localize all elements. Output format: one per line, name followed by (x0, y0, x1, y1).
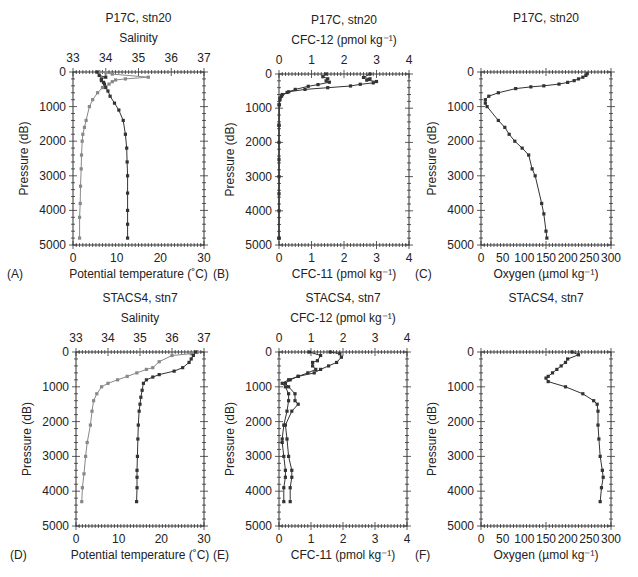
y-tick-label: 3000 (245, 449, 272, 463)
y-tick-label: 5000 (245, 238, 272, 252)
series-potential-temperature (135, 350, 197, 503)
x-tick-label: 0 (276, 251, 283, 265)
y-tick-label: 0 (265, 345, 272, 359)
profile-figure: 010002000300040005000Pressure (dB)010203… (0, 0, 638, 577)
x-tick-label: 150 (536, 532, 556, 546)
plot-frame (76, 352, 204, 526)
x-tick-label: 4 (404, 532, 411, 546)
series-oxygen (544, 350, 604, 503)
chart-title: P17C, stn20 (311, 13, 377, 27)
x-tick-label: 4 (406, 251, 413, 265)
series-oxygen (484, 72, 589, 240)
y-tick-label: 5000 (39, 238, 66, 252)
top-tick-label: 33 (66, 51, 80, 65)
x-tick-label: 2 (341, 251, 348, 265)
y-tick-label: 2000 (245, 415, 272, 429)
top-tick-label: 3 (372, 331, 379, 345)
x-tick-label: 10 (110, 251, 124, 265)
top-axis-label: CFC-12 (pmol kg⁻¹) (290, 311, 395, 325)
y-tick-label: 2000 (447, 134, 474, 148)
top-tick-label: 34 (99, 51, 113, 65)
y-tick-label: 3000 (42, 449, 69, 463)
x-tick-label: 30 (197, 532, 211, 546)
chart-panel-c: 010002000300040005000Pressure (dB)050100… (415, 11, 621, 281)
top-axis-label: Salinity (119, 31, 158, 45)
chart-title: P17C, stn20 (513, 11, 579, 25)
x-tick-label: 300 (601, 251, 621, 265)
y-tick-label: 3000 (245, 170, 272, 184)
chart-panel-a: 010002000300040005000Pressure (dB)010203… (7, 11, 211, 281)
y-tick-label: 2000 (39, 134, 66, 148)
panel-label: (D) (10, 548, 27, 562)
series-salinity (78, 70, 150, 239)
chart-panel-d: 010002000300040005000Pressure (dB)010203… (10, 291, 211, 562)
x-tick-label: 3 (372, 532, 379, 546)
chart-title: P17C, stn20 (105, 11, 171, 25)
series-potential-temperature (95, 70, 129, 239)
top-tick-label: 37 (197, 51, 211, 65)
top-tick-label: 0 (276, 53, 283, 67)
top-tick-label: 2 (340, 331, 347, 345)
y-tick-label: 1000 (447, 100, 474, 114)
y-tick-label: 4000 (42, 484, 69, 498)
y-tick-label: 3000 (447, 169, 474, 183)
plot-frame (279, 352, 407, 526)
y-axis-label: Pressure (dB) (20, 402, 34, 476)
y-tick-label: 3000 (39, 169, 66, 183)
top-tick-label: 4 (404, 331, 411, 345)
x-tick-label: 0 (276, 532, 283, 546)
chart-title: STACS4, stn7 (305, 291, 380, 305)
x-tick-label: 1 (308, 532, 315, 546)
top-tick-label: 1 (308, 53, 315, 67)
x-tick-label: 150 (536, 251, 556, 265)
y-tick-label: 1000 (39, 100, 66, 114)
y-tick-label: 5000 (42, 519, 69, 533)
x-tick-label: 10 (112, 532, 126, 546)
panel-label: (C) (415, 267, 432, 281)
x-tick-label: 100 (514, 251, 534, 265)
series-salinity (80, 350, 199, 503)
x-tick-label: 100 (514, 532, 534, 546)
y-tick-label: 4000 (245, 204, 272, 218)
panel-label: (E) (213, 548, 229, 562)
x-axis-label: Potential temperature (˚C) (69, 267, 208, 281)
y-tick-label: 0 (265, 67, 272, 81)
x-axis-label: Potential temperature (˚C) (71, 548, 210, 562)
x-tick-label: 300 (601, 532, 621, 546)
top-tick-label: 0 (276, 331, 283, 345)
series-cfc-12 (277, 72, 331, 239)
x-tick-label: 1 (308, 251, 315, 265)
x-tick-label: 3 (373, 251, 380, 265)
y-tick-label: 2000 (245, 135, 272, 149)
panel-label: (A) (7, 267, 23, 281)
x-tick-label: 30 (197, 251, 211, 265)
x-tick-label: 200 (558, 251, 578, 265)
y-tick-label: 1000 (42, 380, 69, 394)
y-tick-label: 5000 (447, 519, 474, 533)
x-tick-label: 0 (478, 532, 485, 546)
y-tick-label: 1000 (447, 380, 474, 394)
plot-frame (73, 72, 204, 245)
top-tick-label: 37 (197, 331, 211, 345)
top-axis-label: Salinity (121, 311, 160, 325)
y-tick-label: 0 (59, 65, 66, 79)
y-axis-label: Pressure (dB) (425, 402, 439, 476)
x-tick-label: 0 (73, 532, 80, 546)
x-tick-label: 0 (478, 251, 485, 265)
y-tick-label: 3000 (447, 449, 474, 463)
y-tick-label: 4000 (245, 484, 272, 498)
x-axis-label: CFC-11 (pmol kg⁻¹) (291, 548, 395, 562)
chart-panel-e: 010002000300040005000Pressure (dB)01234C… (213, 291, 411, 562)
chart-panel-b: 010002000300040005000Pressure (dB)01234C… (213, 13, 413, 281)
y-tick-label: 0 (62, 345, 69, 359)
y-tick-label: 0 (467, 65, 474, 79)
top-tick-label: 34 (101, 331, 115, 345)
top-tick-label: 35 (132, 51, 146, 65)
chart-title: STACS4, stn7 (102, 291, 177, 305)
y-axis-label: Pressure (dB) (425, 121, 439, 195)
panel-label: (B) (213, 267, 229, 281)
y-axis-label: Pressure (dB) (17, 121, 31, 195)
y-axis-label: Pressure (dB) (223, 402, 237, 476)
top-tick-label: 2 (341, 53, 348, 67)
x-tick-label: 50 (496, 251, 510, 265)
